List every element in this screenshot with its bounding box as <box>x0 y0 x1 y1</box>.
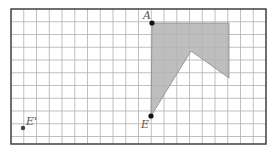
grid-figure: A E E' <box>0 0 276 151</box>
point-e <box>148 113 153 118</box>
label-a: A <box>142 9 151 22</box>
label-e: E <box>140 118 149 131</box>
label-e-prime: E' <box>25 115 37 128</box>
point-e-prime <box>21 126 25 130</box>
shaded-polygon <box>151 23 229 116</box>
